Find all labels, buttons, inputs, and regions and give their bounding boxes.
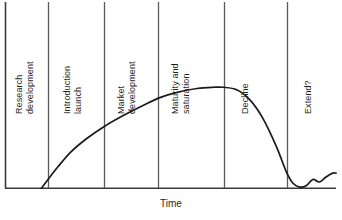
product-lifecycle-chart: Research development Introduction launch… <box>0 0 342 220</box>
chart-plot-area <box>0 0 342 220</box>
x-axis-title: Time <box>0 198 342 209</box>
lifecycle-curve <box>41 87 336 188</box>
